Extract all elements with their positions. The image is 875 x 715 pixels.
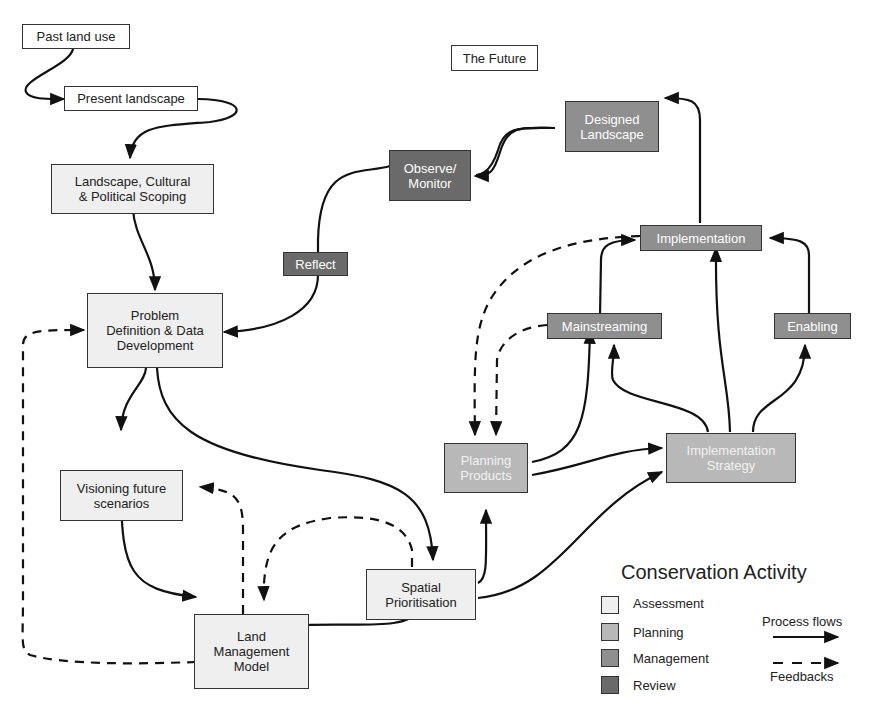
- legend-label-review: Review: [633, 678, 676, 693]
- node-mainstreaming: Mainstreaming: [547, 313, 662, 339]
- node-implementation: Implementation: [640, 225, 762, 251]
- legend-label-management: Management: [633, 651, 709, 666]
- legend-swatch-planning: [601, 623, 619, 641]
- node-spatial-prioritisation: Spatial Prioritisation: [366, 569, 476, 620]
- node-enabling: Enabling: [774, 313, 851, 339]
- node-observe-monitor: Observe/ Monitor: [389, 150, 471, 201]
- legend-swatch-review: [601, 676, 619, 694]
- node-problem-definition: Problem Definition & Data Development: [87, 293, 223, 368]
- legend-label-assessment: Assessment: [633, 596, 704, 611]
- node-present-landscape: Present landscape: [64, 86, 198, 111]
- legend-label-planning: Planning: [633, 625, 684, 640]
- legend-label-feedbacks: Feedbacks: [770, 669, 834, 684]
- legend-label-process-flows: Process flows: [762, 614, 842, 629]
- node-designed-landscape: Designed Landscape: [565, 101, 659, 152]
- node-planning-products: Planning Products: [444, 443, 528, 493]
- legend-swatch-assessment: [601, 596, 619, 614]
- legend-swatch-management: [601, 649, 619, 667]
- node-visioning-future-scenarios: Visioning future scenarios: [60, 470, 183, 521]
- node-the-future: The Future: [451, 45, 538, 71]
- node-implementation-strategy: Implementation Strategy: [666, 433, 796, 483]
- node-reflect: Reflect: [283, 252, 348, 276]
- legend-title: Conservation Activity: [621, 561, 807, 584]
- node-land-management-model: Land Management Model: [194, 614, 309, 689]
- node-landscape-scoping: Landscape, Cultural & Political Scoping: [51, 164, 214, 214]
- node-past-land-use: Past land use: [22, 24, 130, 49]
